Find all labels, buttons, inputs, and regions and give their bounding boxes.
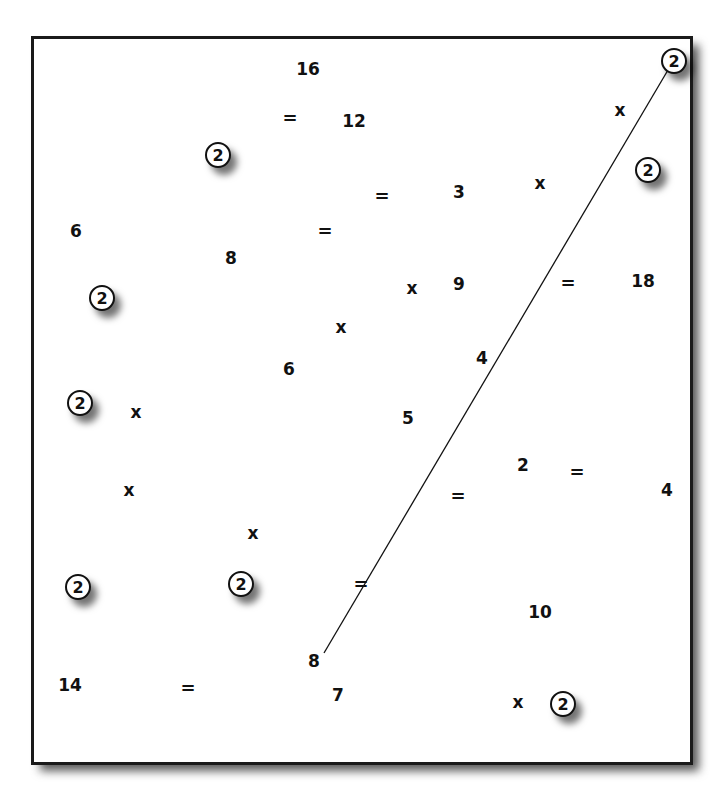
number-token: 3	[453, 184, 465, 201]
circled-number: 2	[89, 285, 115, 311]
number-token: 18	[631, 273, 655, 290]
circled-number: 2	[550, 691, 576, 717]
circled-number: 2	[65, 574, 91, 600]
equals-operator: =	[560, 274, 575, 292]
times-operator: x	[615, 102, 626, 119]
number-token: 8	[225, 250, 237, 267]
times-operator: x	[248, 525, 259, 542]
times-operator: x	[535, 175, 546, 192]
equals-operator: =	[317, 222, 332, 240]
times-operator: x	[407, 280, 418, 297]
number-token: 8	[308, 653, 320, 670]
number-token: 10	[528, 604, 552, 621]
equals-operator: =	[450, 487, 465, 505]
number-token: 2	[517, 457, 529, 474]
number-token: 16	[296, 61, 320, 78]
number-token: 6	[283, 361, 295, 378]
equals-operator: =	[569, 463, 584, 481]
equals-operator: =	[180, 679, 195, 697]
equals-operator: =	[353, 575, 368, 593]
equals-operator: =	[282, 109, 297, 127]
number-token: 4	[476, 350, 488, 367]
number-token: 12	[342, 113, 366, 130]
number-token: 9	[453, 276, 465, 293]
times-operator: x	[336, 319, 347, 336]
number-token: 6	[70, 223, 82, 240]
circled-number: 2	[228, 571, 254, 597]
equals-operator: =	[374, 187, 389, 205]
number-token: 7	[332, 687, 344, 704]
circled-number: 2	[67, 390, 93, 416]
times-operator: x	[124, 482, 135, 499]
times-operator: x	[131, 404, 142, 421]
circled-number: 2	[205, 142, 231, 168]
puzzle-layer: 16=1222x2=3x6=8x9=182x462x52=x=4x22=1081…	[0, 0, 720, 791]
number-token: 4	[661, 482, 673, 499]
circled-number: 2	[661, 48, 687, 74]
number-token: 14	[58, 677, 82, 694]
circled-number: 2	[635, 157, 661, 183]
times-operator: x	[513, 694, 524, 711]
number-token: 5	[402, 410, 414, 427]
